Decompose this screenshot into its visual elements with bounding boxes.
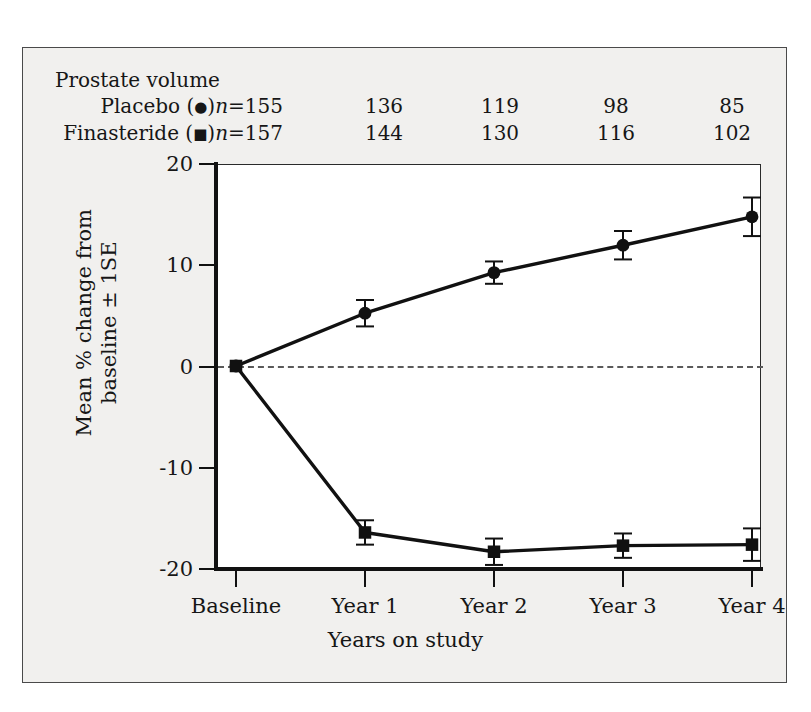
count-table-title: Prostate volume xyxy=(55,68,220,92)
y-tick-label-0: 0 xyxy=(133,355,193,379)
x-axis xyxy=(214,567,763,571)
legend-label-placebo: Placebo xyxy=(100,94,180,118)
figure-panel: Prostate volume Placebo (●)n=155 Finaste… xyxy=(22,47,787,683)
count-table: Prostate volume Placebo (●)n=155 Finaste… xyxy=(23,48,788,148)
x-axis-label: Years on study xyxy=(23,628,788,652)
y-tick-0 xyxy=(199,366,215,368)
x-tick-label-year1: Year 1 xyxy=(300,594,430,618)
legend-row-finasteride: Finasteride (■)n=157 xyxy=(23,121,283,145)
placebo-n-symbol: n xyxy=(215,94,228,118)
count-cell-finasteride-year4: 102 xyxy=(702,121,762,145)
x-tick-label-year2: Year 2 xyxy=(429,594,559,618)
finasteride-n-value: =157 xyxy=(228,121,283,145)
y-tick-20 xyxy=(199,163,215,165)
y-tick-neg10 xyxy=(199,467,215,469)
x-tick-label-baseline: Baseline xyxy=(171,594,301,618)
y-tick-label-neg10: -10 xyxy=(133,456,193,480)
count-cell-finasteride-year1: 144 xyxy=(354,121,414,145)
placebo-n-value: =155 xyxy=(228,94,283,118)
y-tick-10 xyxy=(199,264,215,266)
count-cell-placebo-year3: 98 xyxy=(586,94,646,118)
filled-square-icon: ■ xyxy=(193,125,207,143)
count-cell-finasteride-year2: 130 xyxy=(470,121,530,145)
zero-reference-line xyxy=(218,366,763,368)
y-tick-label-20: 20 xyxy=(133,152,193,176)
legend-label-finasteride: Finasteride xyxy=(63,121,179,145)
finasteride-n-symbol: n xyxy=(215,121,228,145)
x-tick-year1 xyxy=(364,571,366,587)
x-tick-year3 xyxy=(622,571,624,587)
x-tick-label-year4: Year 4 xyxy=(687,594,811,618)
count-cell-finasteride-year3: 116 xyxy=(586,121,646,145)
y-tick-label-10: 10 xyxy=(133,253,193,277)
count-cell-placebo-year1: 136 xyxy=(354,94,414,118)
x-tick-baseline xyxy=(235,571,237,587)
count-cell-placebo-year2: 119 xyxy=(470,94,530,118)
y-axis-label-line1: Mean % change from xyxy=(72,173,97,473)
y-tick-neg20 xyxy=(199,568,215,570)
filled-circle-icon: ● xyxy=(194,98,207,116)
y-axis-label: Mean % change from baseline ± 1SE xyxy=(72,173,122,473)
x-tick-year4 xyxy=(751,571,753,587)
x-tick-year2 xyxy=(493,571,495,587)
x-tick-label-year3: Year 3 xyxy=(558,594,688,618)
y-tick-label-neg20: -20 xyxy=(133,557,193,581)
legend-row-placebo: Placebo (●)n=155 xyxy=(23,94,283,118)
y-axis-label-line2: baseline ± 1SE xyxy=(97,173,122,473)
count-cell-placebo-year4: 85 xyxy=(702,94,762,118)
